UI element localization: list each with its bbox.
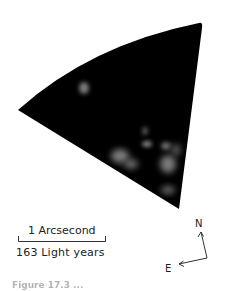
east-label: E: [165, 263, 171, 274]
figure-caption: Figure 17.3 ...: [12, 280, 83, 290]
scale-distance-label: 163 Light years: [16, 246, 105, 259]
image-wedge: [18, 23, 202, 209]
scale-angular-label: 1 Arcsecond: [28, 224, 96, 237]
north-label: N: [195, 218, 202, 229]
compass: [179, 232, 207, 267]
